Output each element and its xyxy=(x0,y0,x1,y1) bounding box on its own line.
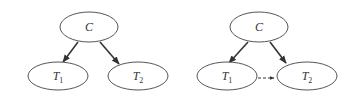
node-label-subscript: 2 xyxy=(139,76,143,85)
node-label-subscript: 1 xyxy=(59,76,63,85)
node-label: C xyxy=(85,20,94,34)
node-t2: T2 xyxy=(277,62,337,90)
edge-c-to-t1-arrow xyxy=(229,42,248,63)
node-t1: T1 xyxy=(28,62,88,90)
causal-diagram-canvas: CT1T2CT1T2 xyxy=(0,0,347,101)
diagram-left: CT1T2 xyxy=(28,12,168,90)
node-t2: T2 xyxy=(108,62,168,90)
edge-c-to-t2-arrow xyxy=(100,42,119,64)
edge-c-to-t2-arrow xyxy=(270,42,286,63)
node-label-subscript: 1 xyxy=(228,76,232,85)
node-t1: T1 xyxy=(197,62,257,90)
node-c: C xyxy=(60,12,118,42)
node-label-subscript: 2 xyxy=(308,76,312,85)
node-c: C xyxy=(230,12,288,42)
node-label: C xyxy=(255,20,264,34)
edge-c-to-t1-arrow xyxy=(63,42,78,62)
diagram-right: CT1T2 xyxy=(197,12,337,90)
